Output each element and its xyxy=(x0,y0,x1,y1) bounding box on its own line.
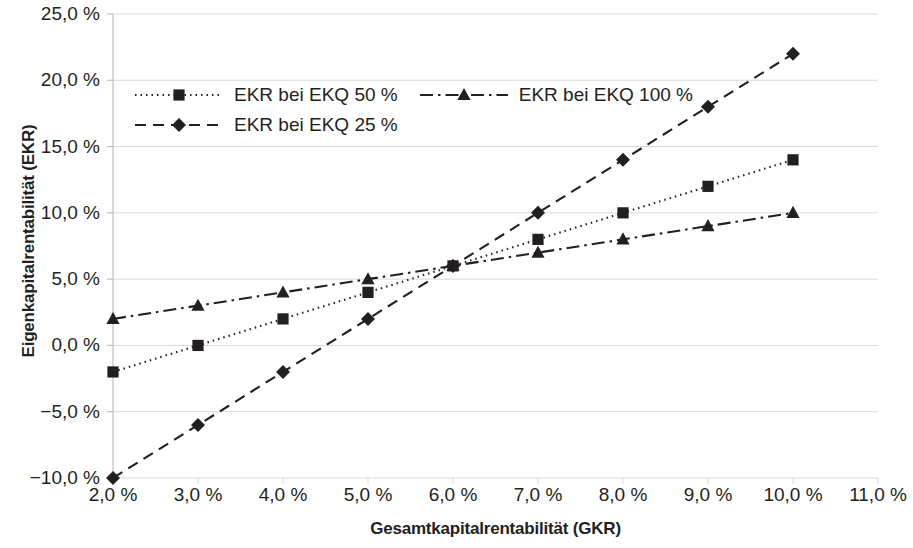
x-tick-label: 7,0 % xyxy=(514,484,563,506)
data-point-diamond xyxy=(531,206,545,220)
y-axis-title: Eigenkapitalrentabilität (EKR) xyxy=(19,26,39,456)
data-point-square xyxy=(532,234,543,245)
data-point-square xyxy=(173,89,184,100)
y-tick-label: −10,0 % xyxy=(8,467,100,489)
data-point-diamond xyxy=(276,365,290,379)
data-point-square xyxy=(702,181,713,192)
chart-container: −10,0 %−5,0 %0,0 %5,0 %10,0 %15,0 %20,0 … xyxy=(0,0,913,548)
y-tick-label: 25,0 % xyxy=(8,3,100,25)
series-2 xyxy=(106,206,799,324)
legend-row: EKR bei EKQ 50 %EKR bei EKQ 100 % xyxy=(133,80,693,110)
x-tick-label: 2,0 % xyxy=(89,484,138,506)
data-point-diamond xyxy=(191,418,205,432)
legend-label: EKR bei EKQ 25 % xyxy=(234,114,398,136)
legend-sample-square xyxy=(133,86,225,104)
data-point-diamond xyxy=(701,100,715,114)
data-point-square xyxy=(362,287,373,298)
x-tick-label: 9,0 % xyxy=(684,484,733,506)
chart-legend: EKR bei EKQ 50 %EKR bei EKQ 100 %EKR bei… xyxy=(133,80,693,140)
legend-sample-diamond xyxy=(133,116,225,134)
legend-row: EKR bei EKQ 25 % xyxy=(133,110,693,140)
data-point-triangle xyxy=(276,285,289,297)
x-tick-label: 5,0 % xyxy=(344,484,393,506)
data-point-square xyxy=(617,207,628,218)
x-axis-title: Gesamtkapitalrentabilität (GKR) xyxy=(113,519,878,539)
data-point-square xyxy=(107,366,118,377)
data-point-triangle xyxy=(457,88,470,100)
x-tick-label: 11,0 % xyxy=(849,484,907,506)
data-point-square xyxy=(277,313,288,324)
legend-label: EKR bei EKQ 50 % xyxy=(234,84,398,106)
data-point-diamond xyxy=(786,47,800,61)
data-point-triangle xyxy=(786,206,799,218)
x-tick-label: 10,0 % xyxy=(763,484,822,506)
x-tick-label: 6,0 % xyxy=(429,484,478,506)
legend-sample-triangle xyxy=(418,86,510,104)
data-point-diamond xyxy=(106,471,120,485)
x-tick-label: 3,0 % xyxy=(174,484,223,506)
data-point-diamond xyxy=(361,312,375,326)
data-point-diamond xyxy=(172,118,186,132)
x-tick-label: 4,0 % xyxy=(259,484,308,506)
data-point-triangle xyxy=(191,299,204,311)
legend-item[interactable]: EKR bei EKQ 50 % xyxy=(133,84,418,106)
x-tick-label: 8,0 % xyxy=(599,484,648,506)
data-point-square xyxy=(192,340,203,351)
legend-item[interactable]: EKR bei EKQ 25 % xyxy=(133,114,443,136)
data-point-diamond xyxy=(616,153,630,167)
legend-item[interactable]: EKR bei EKQ 100 % xyxy=(418,84,693,106)
legend-label: EKR bei EKQ 100 % xyxy=(519,84,693,106)
data-point-square xyxy=(787,154,798,165)
y-axis-tick-labels: −10,0 %−5,0 %0,0 %5,0 %10,0 %15,0 %20,0 … xyxy=(0,0,100,548)
